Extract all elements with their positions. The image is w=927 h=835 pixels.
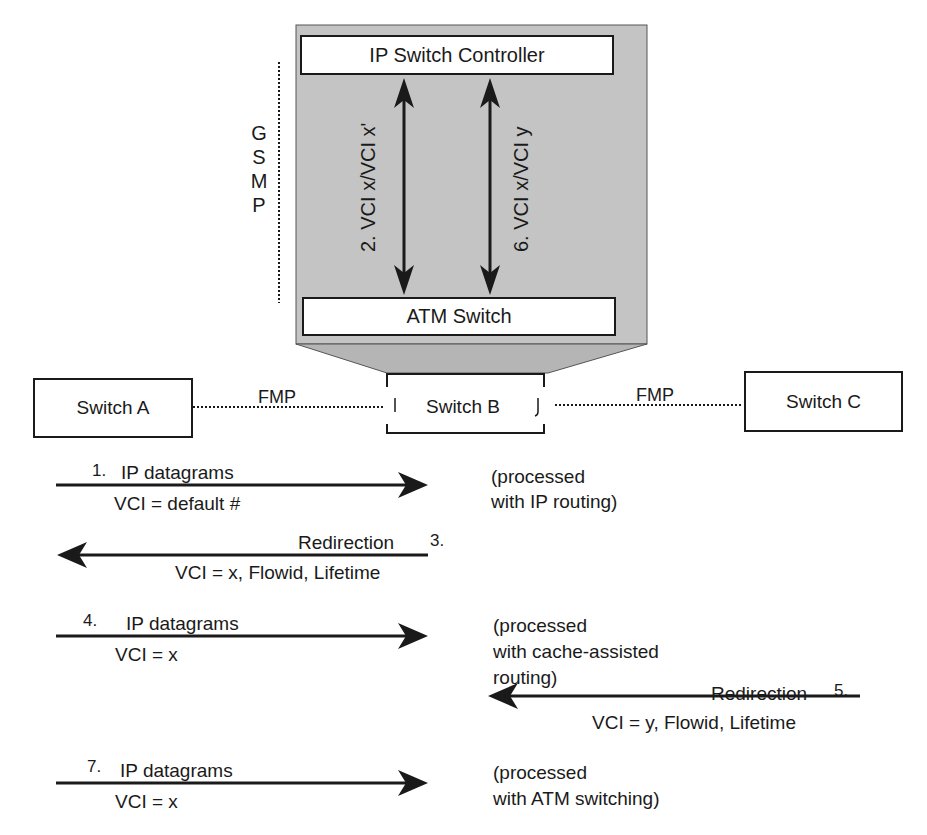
step-5-number: 5. [834, 682, 848, 699]
step-3-bottom-label: VCI = x, Flowid, Lifetime [175, 563, 380, 582]
atm-switch-box: ATM Switch [302, 297, 616, 336]
step-1-bottom-label: VCI = default # [114, 494, 240, 513]
step-4-note-line-3: routing) [493, 668, 557, 687]
switch-c-label: Switch C [786, 391, 861, 413]
step-7-top-label: IP datagrams [120, 761, 233, 780]
gsmp-label: G S M P [249, 121, 269, 217]
atm-switch-label: ATM Switch [406, 305, 511, 328]
step-3-top-label: Redirection [298, 533, 394, 552]
step-5-bottom-label: VCI = y, Flowid, Lifetime [592, 713, 796, 732]
step-7-number: 7. [87, 758, 101, 775]
step-7-note-line-2: with ATM switching) [493, 789, 659, 808]
step-7-arrow [56, 770, 428, 796]
step-4-note-line-2: with cache-assisted [493, 642, 659, 661]
step-1-number: 1. [92, 462, 106, 479]
vci-label-step-6: 6. VCI x/VCI y [510, 126, 533, 252]
step-1-note-line-2: with IP routing) [491, 492, 617, 511]
panel-funnel [296, 344, 647, 373]
step-7-note-line-1: (processed [493, 763, 587, 782]
step-7-bottom-label: VCI = x [115, 792, 178, 811]
step-4-top-label: IP datagrams [126, 614, 239, 633]
switch-a-label: Switch A [77, 397, 150, 419]
ip-switch-controller-box: IP Switch Controller [300, 35, 614, 75]
vci-label-step-2: 2. VCI x/VCI x' [357, 123, 380, 252]
step-4-arrow [56, 623, 428, 649]
switch-a-box: Switch A [33, 378, 193, 438]
ip-switch-controller-label: IP Switch Controller [369, 44, 544, 67]
step-4-note-line-1: (processed [493, 616, 587, 635]
switch-b-label: Switch B [426, 397, 500, 416]
step-5-top-label: Redirection [711, 684, 807, 703]
step-1-arrow [56, 472, 428, 498]
step-1-top-label: IP datagrams [121, 463, 234, 482]
step-3-number: 3. [430, 532, 444, 549]
fmp-label-right: FMP [636, 386, 674, 404]
step-4-number: 4. [83, 612, 97, 629]
step-4-bottom-label: VCI = x [115, 645, 178, 664]
fmp-label-left: FMP [258, 388, 296, 406]
step-1-note-line-1: (processed [491, 467, 585, 486]
switch-c-box: Switch C [744, 371, 903, 432]
